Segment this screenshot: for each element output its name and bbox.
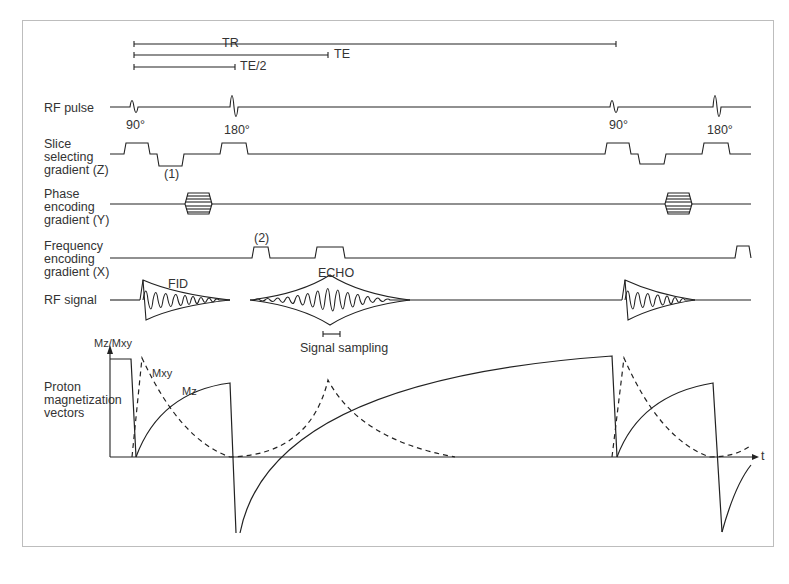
- phase-step-block-a: [185, 193, 212, 214]
- signal-sampling-marker: [323, 331, 340, 337]
- sequence-diagram: [0, 0, 789, 584]
- fid-waveform-b: [622, 280, 695, 320]
- frequency-gradient-trace: [110, 246, 751, 258]
- rf-pulse-trace: [110, 96, 751, 117]
- fid-waveform: [140, 280, 230, 320]
- timing-bars: [134, 41, 616, 70]
- axis-arrows: [107, 345, 759, 460]
- slice-gradient-trace: [110, 143, 751, 166]
- echo-waveform: [250, 275, 410, 325]
- mxy-curve: [132, 358, 750, 457]
- phase-step-block-b: [665, 193, 692, 214]
